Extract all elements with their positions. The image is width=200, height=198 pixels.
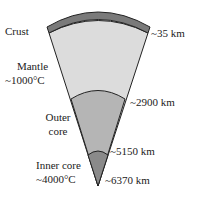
inner-core-depth-label: ~6370 km (105, 174, 150, 187)
mantle-depth-label: ~2900 km (130, 96, 175, 109)
inner-core-temp-label: ~4000°C (36, 173, 76, 186)
mantle-label: Mantle (10, 60, 55, 73)
outer-core-label-line2: core (40, 125, 76, 138)
mantle-temp-label: ~1000°C (5, 74, 45, 87)
crust-depth-label: ~35 km (151, 27, 185, 40)
outer-core-label-line1: Outer (40, 111, 76, 124)
crust-label: Crust (5, 25, 29, 38)
inner-core-label: Inner core (36, 159, 81, 172)
outer-core-depth-label: ~5150 km (110, 145, 155, 158)
